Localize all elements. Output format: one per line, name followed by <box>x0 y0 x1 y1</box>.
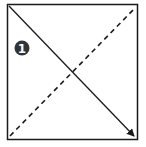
badge-label: 1 <box>18 42 26 56</box>
step-badge: 1 <box>15 41 30 56</box>
diagram-canvas: 1 <box>0 0 146 147</box>
solid-diagonal-arrow <box>9 6 134 136</box>
